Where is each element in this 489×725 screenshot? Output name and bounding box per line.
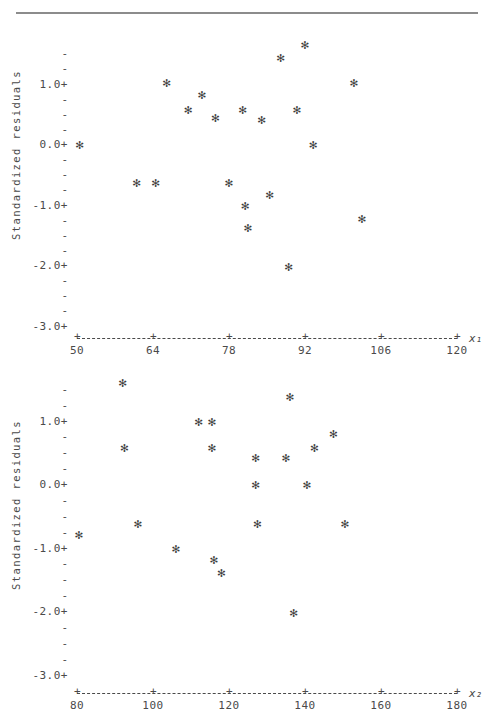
x-axis-variable-name: x₁ xyxy=(469,332,482,345)
x-tick-label: 78 xyxy=(222,344,236,357)
x-tick-label: 106 xyxy=(370,344,391,357)
y-tick-label: 0.0+ xyxy=(12,138,68,151)
y-tick-label: 1.0+ xyxy=(12,78,68,91)
y-tick-minor: - xyxy=(12,383,68,396)
x-axis-line-top xyxy=(77,338,457,339)
y-tick-minor: - xyxy=(12,621,68,634)
data-point-marker: ✻ xyxy=(244,221,252,234)
data-point-marker: ✻ xyxy=(258,112,266,125)
data-point-marker: ✻ xyxy=(301,38,309,51)
x-tick-mark: + xyxy=(74,331,81,342)
data-point-marker: ✻ xyxy=(358,211,366,224)
y-tick-label: -1.0+ xyxy=(12,199,68,212)
y-tick-label: -1.0+ xyxy=(12,542,68,555)
data-point-marker: ✻ xyxy=(208,441,216,454)
plot-area-bottom: 1.0+0.0+-1.0+-2.0+-3.0+--------------✻✻✻… xyxy=(0,360,489,705)
y-tick-minor: - xyxy=(12,573,68,586)
x-tick-mark: + xyxy=(226,686,233,697)
data-point-marker: ✻ xyxy=(252,451,260,464)
x-tick-mark: + xyxy=(150,331,157,342)
x-tick-mark: + xyxy=(302,331,309,342)
data-point-marker: ✻ xyxy=(277,51,285,64)
y-tick-label: -2.0+ xyxy=(12,259,68,272)
x-tick-mark: + xyxy=(454,331,461,342)
x-tick-label: 140 xyxy=(294,699,315,712)
data-point-marker: ✻ xyxy=(241,198,249,211)
data-point-marker: ✻ xyxy=(152,175,160,188)
data-point-marker: ✻ xyxy=(225,175,233,188)
y-tick-minor: - xyxy=(12,557,68,570)
y-tick-minor: - xyxy=(12,168,68,181)
data-point-marker: ✻ xyxy=(163,75,171,88)
y-tick-minor: - xyxy=(12,153,68,166)
x-tick-mark: + xyxy=(150,686,157,697)
y-tick-minor: - xyxy=(12,304,68,317)
x-tick-mark: + xyxy=(226,331,233,342)
y-tick-minor: - xyxy=(12,526,68,539)
data-point-marker: ✻ xyxy=(195,414,203,427)
y-tick-minor: - xyxy=(12,494,68,507)
y-tick-minor: - xyxy=(12,47,68,60)
x-tick-mark: + xyxy=(454,686,461,697)
y-tick-minor: - xyxy=(12,214,68,227)
x-tick-label: 64 xyxy=(146,344,160,357)
data-point-marker: ✻ xyxy=(252,478,260,491)
y-tick-minor: - xyxy=(12,62,68,75)
y-tick-minor: - xyxy=(12,446,68,459)
chart-panel-residuals-vs-x2: Standardized residuals 1.0+0.0+-1.0+-2.0… xyxy=(0,360,489,705)
x-tick-mark: + xyxy=(378,686,385,697)
y-tick-label: -3.0+ xyxy=(12,320,68,333)
data-point-marker: ✻ xyxy=(217,565,225,578)
data-point-marker: ✻ xyxy=(121,441,129,454)
y-tick-minor: - xyxy=(12,123,68,136)
y-tick-minor: - xyxy=(12,108,68,121)
data-point-marker: ✻ xyxy=(133,175,141,188)
data-point-marker: ✻ xyxy=(293,102,301,115)
data-point-marker: ✻ xyxy=(198,87,206,100)
data-point-marker: ✻ xyxy=(350,75,358,88)
x-tick-label: 120 xyxy=(218,699,239,712)
y-tick-minor: - xyxy=(12,93,68,106)
data-point-marker: ✻ xyxy=(75,527,83,540)
data-point-marker: ✻ xyxy=(286,390,294,403)
y-tick-minor: - xyxy=(12,653,68,666)
data-point-marker: ✻ xyxy=(208,414,216,427)
x-axis-bottom: +80+100+120+140+160+180x₂ xyxy=(77,687,457,701)
y-tick-minor: - xyxy=(12,399,68,412)
x-axis-line-bottom xyxy=(77,693,457,694)
data-point-marker: ✻ xyxy=(311,441,319,454)
data-point-marker: ✻ xyxy=(134,517,142,530)
y-tick-minor: - xyxy=(12,430,68,443)
y-tick-label: -3.0+ xyxy=(12,669,68,682)
data-point-marker: ✻ xyxy=(119,376,127,389)
x-tick-label: 160 xyxy=(370,699,391,712)
x-axis-top: +50+64+78+92+106+120x₁ xyxy=(77,332,457,346)
x-tick-label: 80 xyxy=(70,699,84,712)
x-tick-label: 50 xyxy=(70,344,84,357)
y-tick-label: -2.0+ xyxy=(12,605,68,618)
y-tick-minor: - xyxy=(12,589,68,602)
x-tick-label: 92 xyxy=(298,344,312,357)
data-point-marker: ✻ xyxy=(285,260,293,273)
x-tick-label: 180 xyxy=(446,699,467,712)
y-tick-minor: - xyxy=(12,274,68,287)
y-tick-label: 0.0+ xyxy=(12,478,68,491)
x-tick-mark: + xyxy=(378,331,385,342)
y-tick-minor: - xyxy=(12,229,68,242)
plot-area-top: 1.0+0.0+-1.0+-2.0+-3.0+--------------✻✻✻… xyxy=(0,20,489,350)
y-tick-minor: - xyxy=(12,462,68,475)
data-point-marker: ✻ xyxy=(239,102,247,115)
data-point-marker: ✻ xyxy=(309,138,317,151)
y-tick-minor: - xyxy=(12,637,68,650)
x-tick-mark: + xyxy=(74,686,81,697)
x-tick-label: 120 xyxy=(446,344,467,357)
chart-panel-residuals-vs-x1: Standardized residuals 1.0+0.0+-1.0+-2.0… xyxy=(0,20,489,350)
y-tick-label: 1.0+ xyxy=(12,415,68,428)
y-tick-minor: - xyxy=(12,244,68,257)
data-point-marker: ✻ xyxy=(266,187,274,200)
x-axis-variable-name: x₂ xyxy=(469,687,482,700)
data-point-marker: ✻ xyxy=(303,478,311,491)
y-tick-minor: - xyxy=(12,510,68,523)
data-point-marker: ✻ xyxy=(172,541,180,554)
x-tick-mark: + xyxy=(302,686,309,697)
